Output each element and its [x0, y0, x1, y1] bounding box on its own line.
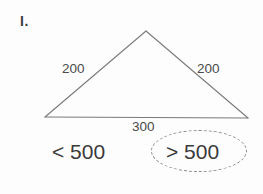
triangle-left-side — [45, 31, 146, 117]
worksheet-canvas: I. 200 200 300 < 500 > 500 — [0, 0, 263, 194]
triangle-base — [45, 117, 248, 118]
side-length-label-right: 200 — [197, 62, 220, 76]
answer-option-greater-than-500[interactable]: > 500 — [166, 141, 219, 162]
side-length-label-base: 300 — [132, 120, 155, 134]
answer-option-less-than-500[interactable]: < 500 — [52, 141, 105, 162]
triangle-figure — [0, 0, 263, 194]
side-length-label-left: 200 — [62, 62, 85, 76]
